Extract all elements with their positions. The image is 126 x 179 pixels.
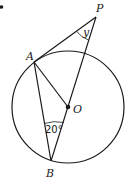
segment-AB xyxy=(34,62,51,161)
label-p: P xyxy=(95,2,104,15)
label-o: O xyxy=(73,103,82,116)
corner-dot xyxy=(0,5,3,9)
segment-AO xyxy=(34,62,68,107)
label-b: B xyxy=(45,167,54,179)
center-dot xyxy=(66,105,71,110)
label-a: A xyxy=(25,50,34,63)
angle-label-y: y xyxy=(82,26,90,39)
segment-PB xyxy=(51,17,96,161)
angle-label-20: 20° xyxy=(45,124,63,135)
geometry-diagram: P A O B y 20° xyxy=(0,0,126,179)
